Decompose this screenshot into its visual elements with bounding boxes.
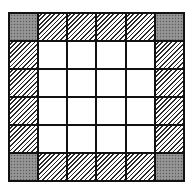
empty-cell [97, 126, 124, 152]
edge-cell [97, 154, 124, 180]
empty-cell [68, 42, 95, 68]
edge-cell [10, 126, 37, 152]
empty-cell [127, 126, 154, 152]
edge-cell [156, 98, 183, 124]
empty-cell [39, 126, 66, 152]
edge-cell [156, 70, 183, 96]
edge-cell [10, 42, 37, 68]
edge-cell [39, 14, 66, 40]
corner-cell [156, 14, 183, 40]
edge-cell [156, 42, 183, 68]
empty-cell [68, 70, 95, 96]
empty-cell [39, 98, 66, 124]
edge-cell [39, 154, 66, 180]
corner-cell [10, 154, 37, 180]
grid-board [8, 12, 185, 182]
edge-cell [127, 14, 154, 40]
empty-cell [97, 70, 124, 96]
empty-cell [127, 70, 154, 96]
empty-cell [39, 42, 66, 68]
corner-cell [156, 154, 183, 180]
corner-cell [10, 14, 37, 40]
empty-cell [127, 98, 154, 124]
empty-cell [97, 42, 124, 68]
edge-cell [97, 14, 124, 40]
edge-cell [156, 126, 183, 152]
empty-cell [39, 70, 66, 96]
edge-cell [68, 14, 95, 40]
edge-cell [10, 70, 37, 96]
empty-cell [97, 98, 124, 124]
empty-cell [68, 126, 95, 152]
edge-cell [127, 154, 154, 180]
empty-cell [127, 42, 154, 68]
edge-cell [68, 154, 95, 180]
empty-cell [68, 98, 95, 124]
edge-cell [10, 98, 37, 124]
